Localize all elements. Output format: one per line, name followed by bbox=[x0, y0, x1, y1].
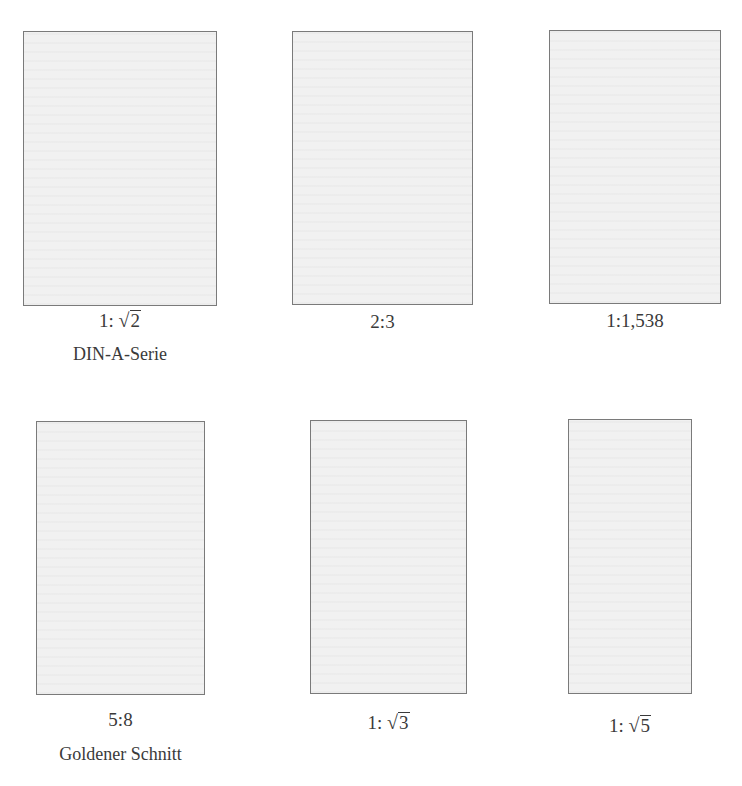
sqrt-symbol: √5 bbox=[629, 714, 651, 736]
ratio-prefix: 1: bbox=[609, 715, 624, 737]
sqrt-symbol: √3 bbox=[387, 711, 409, 733]
page-rect-sqrt3 bbox=[310, 420, 467, 694]
ratio-label-2-3: 2:3 bbox=[292, 311, 473, 333]
ratio-label-5-8: 5:8 bbox=[36, 709, 205, 731]
ratio-label-sqrt3: 1: √3 bbox=[310, 711, 467, 734]
page-rect-1-1538 bbox=[549, 30, 721, 304]
caption-din-a-serie: DIN-A-Serie bbox=[23, 343, 217, 365]
page-rect-2-3 bbox=[292, 31, 473, 305]
ratio-prefix: 1: bbox=[367, 712, 382, 734]
caption-goldener-schnitt: Goldener Schnitt bbox=[36, 743, 205, 765]
ratio-label-din-a: 1: √2 bbox=[23, 309, 217, 332]
sqrt-symbol: √2 bbox=[119, 309, 141, 331]
page-rect-sqrt5 bbox=[568, 419, 692, 694]
page-rect-din-a bbox=[23, 31, 217, 306]
ratio-label-sqrt5: 1: √5 bbox=[568, 714, 692, 737]
ratio-prefix: 1: bbox=[99, 310, 114, 332]
ratio-label-1-1538: 1:1,538 bbox=[549, 310, 721, 332]
page-rect-5-8 bbox=[36, 421, 205, 695]
